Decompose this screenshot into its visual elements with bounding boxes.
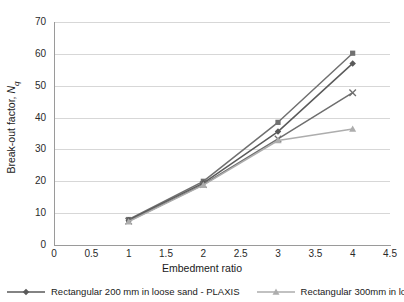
legend-swatch-diamond-icon <box>6 286 46 298</box>
gridline-y <box>54 181 390 182</box>
x-axis-line <box>54 245 391 246</box>
x-tick-label: 4.5 <box>373 249 404 259</box>
x-tick-label: 3 <box>261 249 295 259</box>
x-tick-label: 0.5 <box>74 249 108 259</box>
y-axis-line <box>54 22 55 246</box>
x-tick-label: 0 <box>37 249 71 259</box>
gridline-y <box>54 86 390 87</box>
plot-area <box>54 22 390 245</box>
gridline-y <box>54 213 390 214</box>
chart-figure: 010203040506070 00.511.522.533.544.5 Emb… <box>0 0 404 302</box>
y-axis-title-text: Break-out factor, <box>5 94 17 174</box>
gridline-y <box>54 54 390 55</box>
legend-label: Rectangular 300mm in loose sand - PLAXIS <box>301 286 404 298</box>
legend-entry[interactable]: Rectangular 300mm in loose sand - PLAXIS <box>256 286 404 298</box>
legend-swatch-triangle-icon <box>256 286 296 298</box>
legend-label: Rectangular 200 mm in loose sand - PLAXI… <box>51 286 240 298</box>
x-axis-title: Embedment ratio <box>0 262 404 274</box>
y-axis-subscript: q <box>12 82 21 86</box>
gridline-y <box>54 118 390 119</box>
y-tick-label: 70 <box>2 17 46 27</box>
x-tick-label: 4 <box>336 249 370 259</box>
x-tick-label: 2.5 <box>224 249 258 259</box>
legend-entry[interactable]: Rectangular 200 mm in loose sand - PLAXI… <box>6 286 240 298</box>
data-point-diamond <box>23 289 30 296</box>
x-tick-label: 1 <box>112 249 146 259</box>
gridline-y <box>54 22 390 23</box>
gridline-y <box>54 149 390 150</box>
y-axis-title: Break-out factor, Nq <box>5 53 20 203</box>
y-axis-symbol: N <box>5 86 17 94</box>
x-tick-label: 1.5 <box>149 249 183 259</box>
x-tick-label: 2 <box>186 249 220 259</box>
chart-legend: Rectangular 200 mm in loose sand - PLAXI… <box>0 282 404 302</box>
y-tick-label: 10 <box>2 208 46 218</box>
x-tick-label: 3.5 <box>298 249 332 259</box>
